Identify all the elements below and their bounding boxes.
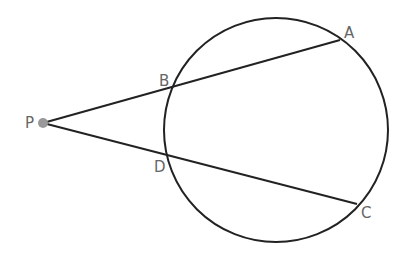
secant-pa	[43, 40, 340, 123]
label-b: B	[159, 72, 169, 90]
label-c: C	[361, 204, 371, 222]
circle	[164, 18, 388, 242]
secant-pc	[43, 123, 357, 204]
label-p: P	[25, 114, 34, 132]
label-a: A	[344, 24, 355, 42]
point-p-dot	[38, 118, 48, 128]
secant-diagram: P A B D C	[0, 0, 402, 256]
label-d: D	[154, 158, 166, 176]
